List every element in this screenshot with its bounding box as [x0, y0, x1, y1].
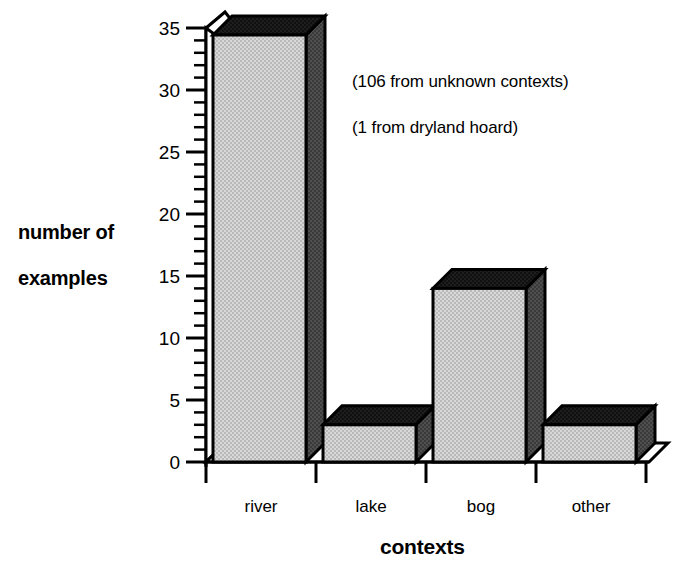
x-category-label-other: other [572, 497, 611, 516]
y-axis-title-line1: number of [18, 221, 114, 243]
annotation-unknown-contexts: (106 from unknown contexts) [352, 72, 569, 92]
y-tick-label-0: 0 [169, 452, 180, 473]
y-axis-minor-ticks [194, 40, 206, 449]
y-axis-title: number of examples [18, 198, 168, 290]
y-axis-title-line2: examples [18, 267, 108, 289]
y-axis-major-ticks [186, 28, 206, 462]
annotation-dryland-hoard: (1 from dryland hoard) [352, 118, 518, 138]
y-tick-label-5: 5 [169, 390, 180, 411]
x-axis-ticks [206, 462, 646, 483]
x-category-label-river: river [244, 497, 277, 516]
bar-river[interactable] [213, 16, 325, 462]
bar-other[interactable] [543, 406, 655, 462]
x-category-label-bog: bog [467, 497, 495, 516]
x-axis-title: contexts [380, 535, 465, 559]
y-tick-label-10: 10 [159, 328, 180, 349]
y-tick-label-35: 35 [159, 18, 180, 39]
bar-chart: number of examples (106 from unknown con… [0, 0, 686, 576]
y-tick-label-30: 30 [159, 80, 180, 101]
bar-lake[interactable] [323, 406, 435, 462]
x-category-label-lake: lake [355, 497, 386, 516]
y-tick-label-25: 25 [159, 142, 180, 163]
bar-bog[interactable] [433, 269, 545, 462]
